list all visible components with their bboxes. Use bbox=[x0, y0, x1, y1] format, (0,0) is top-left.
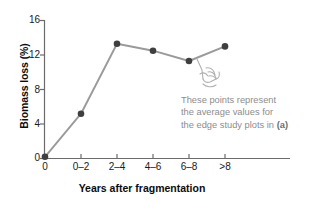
x-tick-marks bbox=[45, 154, 225, 159]
data-point bbox=[186, 58, 193, 65]
data-point bbox=[114, 41, 121, 48]
annotation-line-1: These points represent bbox=[181, 94, 313, 106]
pointing-hand-icon bbox=[197, 59, 219, 87]
data-point bbox=[150, 47, 157, 54]
annotation-text: These points represent the average value… bbox=[181, 94, 313, 131]
chart-figure: Biomass loss (%) Years after fragmentati… bbox=[0, 0, 314, 208]
y-tick-marks bbox=[40, 21, 45, 159]
annotation-panel-ref: (a) bbox=[277, 120, 288, 130]
annotation-line-3-prefix: the edge study plots in bbox=[181, 120, 277, 130]
data-point bbox=[222, 43, 229, 50]
data-point bbox=[42, 154, 49, 161]
annotation-line-2: the average values for bbox=[181, 106, 313, 118]
data-point bbox=[78, 110, 85, 117]
annotation-line-3: the edge study plots in (a) bbox=[181, 119, 313, 131]
